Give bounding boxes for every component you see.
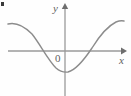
- coordinate-plot: y x 0: [0, 0, 131, 96]
- figure-container: y x 0: [0, 0, 131, 96]
- x-axis-label: x: [118, 54, 124, 66]
- y-axis-arrow-icon: [62, 3, 68, 9]
- cosine-curve: [8, 21, 124, 72]
- y-axis-label: y: [52, 2, 58, 14]
- origin-label: 0: [55, 52, 61, 64]
